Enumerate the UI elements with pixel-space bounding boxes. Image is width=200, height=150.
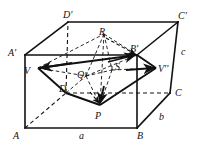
- label-B-prime: B': [130, 44, 138, 54]
- edge-Aprime-Dprime: [25, 22, 68, 55]
- edge-D-Dprime-hidden: [66, 22, 68, 93]
- geometry-figure: D' C' A' R B' c V S V'' Q D C P b A a B: [0, 0, 200, 150]
- label-S: S: [115, 62, 120, 72]
- label-C-prime: C': [178, 11, 187, 21]
- label-V: V: [24, 66, 30, 76]
- label-A: A: [13, 131, 19, 141]
- cross-section-hexagon: [38, 55, 156, 105]
- edge-C-Cprime: [170, 22, 178, 93]
- label-Q: Q: [77, 70, 84, 80]
- label-V-double-prime: V'': [158, 64, 168, 74]
- label-A-prime: A': [8, 48, 16, 58]
- edge-A-D-hidden: [25, 93, 66, 128]
- line-S-P: [100, 70, 112, 105]
- label-C: C: [175, 88, 182, 98]
- label-D-prime: D': [63, 10, 72, 20]
- label-P: P: [95, 111, 101, 121]
- hex-edge-P-Vpp: [100, 68, 156, 105]
- edge-Bprime-Cprime: [137, 22, 178, 55]
- box-visible-edges: [25, 22, 178, 128]
- label-R: R: [99, 27, 105, 37]
- edge-B-C: [137, 93, 170, 128]
- hex-edge-Vpp-Bprime: [137, 55, 156, 68]
- label-D: D: [59, 84, 66, 94]
- label-b: b: [159, 112, 164, 122]
- label-B: B: [137, 131, 143, 141]
- vector-to-Vpp: [126, 68, 154, 70]
- label-c: c: [181, 47, 185, 57]
- label-a: a: [79, 131, 84, 141]
